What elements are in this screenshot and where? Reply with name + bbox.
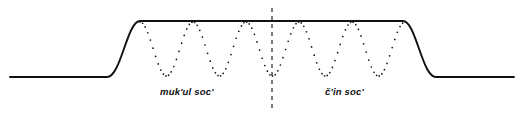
intonation-contour-figure: muk'ul soc' č'in soc' <box>0 0 524 113</box>
wave-dot <box>306 31 308 33</box>
wave-dot <box>150 39 152 41</box>
wave-dot <box>139 21 141 23</box>
wave-dot <box>225 68 227 70</box>
wave-dot <box>345 29 347 31</box>
wave-dot <box>196 24 198 26</box>
wave-dot <box>319 68 321 70</box>
wave-dot <box>303 25 305 27</box>
wave-dot <box>165 75 167 77</box>
phrase-label-right: č'in soc' <box>325 86 364 97</box>
wave-dot <box>376 74 378 76</box>
wave-dot <box>144 26 146 28</box>
wave-dot <box>290 33 292 35</box>
contour-plot <box>0 0 524 113</box>
wave-dot <box>170 71 172 73</box>
wave-dot <box>386 63 388 65</box>
dotted-oscillation-wave <box>139 21 403 77</box>
wave-dot <box>168 74 170 76</box>
wave-dot <box>209 60 211 62</box>
wave-dot <box>152 47 154 49</box>
wave-dot <box>267 70 269 72</box>
wave-dot <box>394 39 396 41</box>
wave-dot <box>235 37 237 39</box>
wave-dot <box>397 31 399 33</box>
wave-dot <box>261 57 263 59</box>
wave-dot <box>360 35 362 37</box>
wave-dot <box>248 23 250 25</box>
wave-dot <box>363 43 365 45</box>
wave-dot <box>220 75 222 77</box>
wave-dot <box>371 66 373 68</box>
wave-dot <box>402 22 404 24</box>
wave-dot <box>256 41 258 43</box>
wave-dot <box>142 22 144 24</box>
wave-dot <box>329 72 331 74</box>
wave-dot <box>251 27 253 29</box>
wave-dot <box>259 49 261 51</box>
wave-dot <box>300 22 302 24</box>
envelope-path <box>10 21 514 77</box>
wave-dot <box>384 69 386 71</box>
wave-dot <box>181 42 183 44</box>
wave-dot <box>332 67 334 69</box>
wave-dot <box>264 65 266 67</box>
wave-dot <box>243 22 245 24</box>
wave-dot <box>176 59 178 61</box>
wave-dot <box>368 59 370 61</box>
wave-dot <box>215 72 217 74</box>
wave-dot <box>163 73 165 75</box>
wave-dot <box>337 52 339 54</box>
wave-dot <box>381 73 383 75</box>
wave-dot <box>287 40 289 42</box>
wave-dot <box>313 54 315 56</box>
wave-dot <box>222 73 224 75</box>
wave-dot <box>269 74 271 76</box>
wave-dot <box>347 24 349 26</box>
wave-dot <box>373 71 375 73</box>
wave-dot <box>160 69 162 71</box>
wave-dot <box>391 47 393 49</box>
wave-dot <box>321 73 323 75</box>
wave-dot <box>355 24 357 26</box>
wave-dot <box>207 52 209 54</box>
wave-dot <box>280 64 282 66</box>
wave-dot <box>285 49 287 51</box>
wave-dot <box>233 45 235 47</box>
wave-dot <box>204 44 206 46</box>
wave-dot <box>189 24 191 26</box>
wave-dot <box>399 26 401 28</box>
wave-dot <box>358 29 360 31</box>
wave-dot <box>282 57 284 59</box>
wave-dot <box>274 74 276 76</box>
wave-dot <box>254 33 256 35</box>
wave-dot <box>293 27 295 29</box>
wave-dot <box>246 21 248 23</box>
wave-dot <box>324 75 326 77</box>
wave-dot <box>352 21 354 23</box>
wave-dot <box>365 51 367 53</box>
wave-dot <box>298 21 300 23</box>
wave-dot <box>183 35 185 37</box>
wave-dot <box>173 66 175 68</box>
wave-dot <box>308 38 310 40</box>
wave-dot <box>295 23 297 25</box>
wave-dot <box>277 70 279 72</box>
wave-dot <box>334 60 336 62</box>
wave-dot <box>147 32 149 34</box>
wave-dot <box>186 28 188 30</box>
wave-dot <box>326 75 328 77</box>
wave-dot <box>378 75 380 77</box>
envelope-curve <box>10 21 514 77</box>
wave-dot <box>241 25 243 27</box>
wave-dot <box>311 46 313 48</box>
wave-dot <box>342 36 344 38</box>
wave-dot <box>389 55 391 57</box>
wave-dot <box>238 30 240 32</box>
wave-dot <box>316 62 318 64</box>
wave-dot <box>230 54 232 56</box>
wave-dot <box>194 22 196 24</box>
wave-dot <box>228 61 230 63</box>
wave-dot <box>155 56 157 58</box>
wave-dot <box>350 22 352 24</box>
wave-dot <box>157 63 159 65</box>
